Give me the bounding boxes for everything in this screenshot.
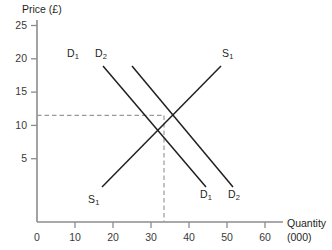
- supply-demand-chart: Price (£) 25 20 15 10 5 0 10 20 30 40 50…: [0, 0, 332, 250]
- demand-curve-d2: [132, 66, 233, 187]
- y-axis-ticks: [31, 26, 37, 159]
- y-tick-label-25: 25: [3, 20, 27, 31]
- curve-label-s1-bottom-base: S: [88, 193, 95, 205]
- equilibrium-guides: [37, 115, 164, 222]
- y-tick-label-5: 5: [3, 153, 27, 164]
- demand-curve-d1: [103, 66, 206, 187]
- curve-label-d2-bottom-base: D: [228, 188, 236, 200]
- chart-canvas: [0, 0, 332, 250]
- curve-label-s1-top-base: S: [222, 47, 229, 59]
- x-tick-label-20: 20: [102, 232, 124, 243]
- curve-label-d2-bottom-sub: 2: [236, 193, 240, 202]
- curve-label-s1-bottom: S1: [88, 194, 99, 205]
- curve-label-d2-bottom: D2: [228, 189, 240, 200]
- curve-label-d2-top: D2: [95, 48, 107, 59]
- y-tick-label-20: 20: [3, 53, 27, 64]
- curve-label-d2-top-base: D: [95, 47, 103, 59]
- y-tick-label-10: 10: [3, 120, 27, 131]
- origin-label: 0: [26, 232, 48, 243]
- curve-group: [102, 66, 233, 187]
- x-axis-title-line1: Quantity: [287, 218, 326, 229]
- x-tick-label-10: 10: [64, 232, 86, 243]
- x-tick-label-50: 50: [216, 232, 238, 243]
- curve-label-d1-bottom-sub: 1: [208, 193, 212, 202]
- curve-label-s1-bottom-sub: 1: [95, 198, 99, 207]
- supply-curve-s1: [102, 66, 221, 187]
- x-tick-label-30: 30: [140, 232, 162, 243]
- curve-label-s1-top: S1: [222, 48, 233, 59]
- curve-label-d2-top-sub: 2: [103, 52, 107, 61]
- curve-label-d1-top-sub: 1: [75, 52, 79, 61]
- curve-label-d1-top-base: D: [67, 47, 75, 59]
- curve-label-d1-bottom: D1: [200, 189, 212, 200]
- curve-label-s1-top-sub: 1: [229, 52, 233, 61]
- x-axis-ticks: [75, 222, 265, 228]
- curve-label-d1-bottom-base: D: [200, 188, 208, 200]
- x-tick-label-40: 40: [178, 232, 200, 243]
- y-axis-title: Price (£): [22, 4, 62, 15]
- x-axis-title-line2: (000): [287, 232, 312, 243]
- curve-label-d1-top: D1: [67, 48, 79, 59]
- x-tick-label-60: 60: [254, 232, 276, 243]
- y-tick-label-15: 15: [3, 86, 27, 97]
